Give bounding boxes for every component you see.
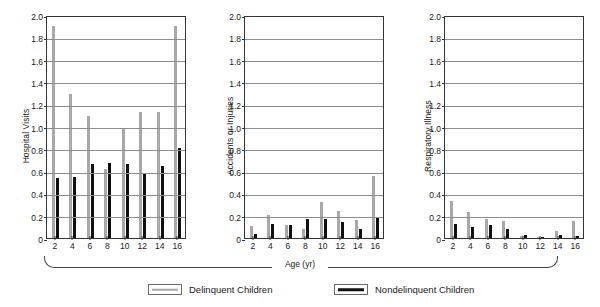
x-axis-tick-mark (522, 236, 523, 240)
bar-nondelinquent (454, 224, 457, 238)
y-axis-tick-label: 1.8 (229, 34, 241, 44)
x-axis-tick-label: 8 (503, 241, 508, 251)
bar-nondelinquent (306, 219, 309, 238)
x-axis-tick-label: 4 (268, 241, 273, 251)
x-axis-tick-mark (287, 236, 288, 240)
legend-item-nondelinquent: Nondelinquent Children (334, 284, 474, 295)
x-axis-tick-label: 4 (70, 241, 75, 251)
gridline (47, 39, 185, 40)
y-axis-tick-mark (242, 195, 245, 196)
bar-nondelinquent (471, 227, 474, 238)
y-axis-tick-label: 1.2 (229, 101, 241, 111)
x-axis-tick-mark (54, 236, 55, 240)
y-axis-tick-label: 1.8 (429, 34, 441, 44)
x-axis-tick-label: 12 (336, 241, 345, 251)
x-axis-tick-label: 14 (353, 241, 362, 251)
y-axis-tick-mark (442, 128, 445, 129)
bar-nondelinquent (324, 219, 327, 238)
y-axis-tick-label: 1.0 (429, 124, 441, 134)
gridline (445, 128, 583, 129)
y-axis-tick-label: 1.4 (229, 79, 241, 89)
x-axis-tick-label: 2 (450, 241, 455, 251)
bar-delinquent (104, 169, 107, 238)
x-axis-tick-mark (252, 236, 253, 240)
y-axis-tick-label: 1.6 (31, 57, 43, 67)
gridline (47, 195, 185, 196)
chart-panel-accidents-or-injuries: Accidents or Injuries 00.20.40.60.81.01.… (200, 0, 400, 272)
x-axis-tick-labels: 246810121416 (444, 241, 584, 255)
x-axis-tick-mark (124, 236, 125, 240)
x-axis-tick-label: 12 (536, 241, 545, 251)
gridline (47, 217, 185, 218)
y-axis-tick-mark (442, 195, 445, 196)
y-axis-tick-label: 0 (38, 235, 43, 245)
y-axis-tick-mark (442, 61, 445, 62)
x-axis-title: Age (yr) (272, 259, 328, 269)
gridline (245, 17, 383, 18)
x-axis-tick-mark (470, 236, 471, 240)
gridline (445, 217, 583, 218)
bar-delinquent (87, 116, 90, 238)
y-axis-tick-mark (442, 150, 445, 151)
y-axis-tick-mark (44, 83, 47, 84)
bar-nondelinquent (489, 225, 492, 238)
bar-nondelinquent (541, 237, 544, 238)
bar-nondelinquent (559, 235, 562, 238)
legend-swatch-black-icon (334, 284, 368, 295)
axis-bracket-left (44, 256, 200, 268)
y-axis-tick-label: 1.0 (31, 124, 43, 134)
y-axis-tick-label: 1.2 (31, 101, 43, 111)
gridline (445, 173, 583, 174)
gridline (47, 83, 185, 84)
gridline (245, 106, 383, 107)
y-axis-tick-label: 2.0 (429, 12, 441, 22)
y-axis-tick-mark (242, 61, 245, 62)
bar-delinquent (337, 211, 340, 238)
gridline (47, 173, 185, 174)
y-axis-tick-mark (44, 217, 47, 218)
x-axis-tick-mark (322, 236, 323, 240)
x-axis-tick-labels: 246810121416 (46, 241, 186, 255)
y-axis-tick-mark (44, 128, 47, 129)
y-axis-tick-mark (442, 106, 445, 107)
x-axis-tick-mark (270, 236, 271, 240)
gridline (445, 83, 583, 84)
x-axis-tick-label: 6 (285, 241, 290, 251)
bar-nondelinquent (73, 177, 76, 238)
bar-nondelinquent (576, 236, 579, 238)
y-axis-tick-label: 1.2 (429, 101, 441, 111)
bar-delinquent (122, 128, 125, 238)
legend-item-delinquent: Delinquent Children (148, 284, 272, 295)
legend-swatch-gray-icon (148, 284, 182, 295)
x-axis-tick-mark (452, 236, 453, 240)
y-axis-tick-label: 0.8 (429, 146, 441, 156)
x-axis-tick-mark (375, 236, 376, 240)
bar-nondelinquent (161, 166, 164, 238)
bar-delinquent (320, 202, 323, 238)
bar-nondelinquent (289, 225, 292, 238)
x-axis-tick-mark (357, 236, 358, 240)
gridline (47, 17, 185, 18)
y-axis-tick-mark (44, 17, 47, 18)
y-axis-tick-mark (44, 39, 47, 40)
figure-legend: Delinquent Children Nondelinquent Childr… (0, 281, 600, 307)
gridline (245, 128, 383, 129)
y-axis-tick-label: 0.4 (229, 190, 241, 200)
x-axis-tick-label: 14 (155, 241, 164, 251)
gridline (445, 39, 583, 40)
y-axis-tick-mark (242, 106, 245, 107)
y-axis-tick-label: 0.6 (31, 168, 43, 178)
bar-nondelinquent (376, 218, 379, 238)
x-axis-tick-label: 10 (318, 241, 327, 251)
y-axis-tick-label: 1.4 (31, 79, 43, 89)
gridline (445, 106, 583, 107)
y-axis-tick-label: 2.0 (31, 12, 43, 22)
y-axis-tick-label: 1.6 (429, 57, 441, 67)
y-axis-tick-mark (242, 150, 245, 151)
y-axis-tick-mark (442, 83, 445, 84)
x-axis-tick-mark (487, 236, 488, 240)
bar-nondelinquent (56, 178, 59, 238)
x-axis-tick-label: 8 (303, 241, 308, 251)
gridline (245, 173, 383, 174)
y-axis-tick-mark (442, 17, 445, 18)
